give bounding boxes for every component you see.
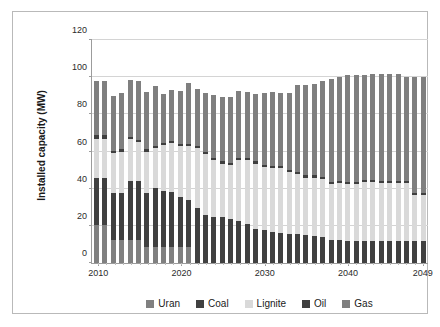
bar-segment-coal [312, 236, 317, 263]
x-axis-minor-tick [215, 263, 216, 265]
bar-segment-lignite [169, 143, 174, 192]
bar-2010 [94, 81, 99, 263]
bar-segment-lignite [111, 153, 116, 193]
bar-2049 [421, 77, 426, 263]
bar-segment-coal [262, 230, 267, 263]
x-axis-minor-tick [323, 263, 324, 265]
plot-area: 020406080100120 20102020203020402049 [91, 40, 428, 264]
bar-2033 [287, 93, 292, 263]
bar-2043 [370, 74, 375, 263]
bar-segment-lignite [144, 152, 149, 194]
legend-swatch-gas-icon [342, 300, 350, 308]
bar-2025 [220, 97, 225, 263]
bar-segment-coal [178, 197, 183, 247]
bar-segment-coal [245, 224, 250, 263]
legend-label: Lignite [257, 298, 286, 309]
x-axis-minor-tick [381, 263, 382, 265]
bar-segment-lignite [186, 146, 191, 200]
bar-segment-gas [136, 81, 141, 140]
bar-segment-coal [144, 193, 149, 247]
x-axis-minor-tick [140, 263, 141, 265]
bar-segment-lignite [195, 148, 200, 208]
bar-segment-gas [278, 93, 283, 166]
legend-label: Gas [354, 298, 372, 309]
bar-segment-coal [270, 232, 275, 263]
legend-item-gas[interactable]: Gas [342, 298, 372, 309]
bar-segment-lignite [303, 178, 308, 236]
bar-segment-coal [136, 181, 141, 240]
legend-item-oil[interactable]: Oil [302, 298, 326, 309]
x-axis-tick-label: 2030 [255, 268, 275, 278]
bar-segment-gas [295, 85, 300, 171]
bar-2048 [412, 77, 417, 263]
bar-segment-gas [111, 96, 116, 151]
bar-segment-gas [220, 97, 225, 161]
bar-2018 [161, 94, 166, 263]
bar-segment-lignite [404, 183, 409, 241]
bar-2016 [144, 92, 149, 263]
bar-segment-gas [94, 81, 99, 135]
bar-segment-coal [236, 221, 241, 263]
bar-2039 [337, 77, 342, 263]
x-axis-minor-tick [190, 263, 191, 265]
x-axis-tick-label: 2010 [88, 268, 108, 278]
bar-segment-gas [169, 90, 174, 141]
legend-item-uran[interactable]: Uran [146, 298, 180, 309]
bar-segment-lignite [102, 139, 107, 178]
y-axis-tick-label: 120 [72, 25, 87, 35]
bar-segment-coal [303, 235, 308, 263]
bar-2019 [169, 90, 174, 263]
bar-2038 [329, 79, 334, 263]
bar-segment-lignite [312, 178, 317, 237]
bar-segment-uran [94, 225, 99, 263]
bar-segment-gas [228, 97, 233, 163]
x-axis-minor-tick [298, 263, 299, 265]
bar-segment-gas [262, 93, 267, 165]
x-axis-minor-tick [365, 263, 366, 265]
bar-segment-coal [220, 217, 225, 263]
x-axis-minor-tick [290, 263, 291, 265]
bar-segment-gas [312, 84, 317, 175]
bar-segment-uran [136, 240, 141, 263]
x-axis-minor-tick [415, 263, 416, 265]
bar-segment-coal [203, 215, 208, 263]
bar-segment-gas [153, 86, 158, 145]
legend-swatch-oil-icon [302, 300, 310, 308]
bar-segment-gas [178, 91, 183, 144]
bar-segment-coal [421, 241, 426, 263]
y-axis-tick-label: 0 [82, 248, 87, 258]
legend-item-coal[interactable]: Coal [196, 298, 229, 309]
y-axis-tick-label: 60 [77, 137, 87, 147]
bar-segment-coal [287, 234, 292, 263]
x-axis-minor-tick [206, 263, 207, 265]
bar-segment-coal [119, 193, 124, 239]
x-axis-minor-tick [331, 263, 332, 265]
bar-2014 [128, 80, 133, 263]
chart-frame: Installed capacity (MW) 020406080100120 … [12, 11, 428, 314]
bar-segment-coal [253, 229, 258, 263]
legend-item-lignite[interactable]: Lignite [245, 298, 286, 309]
bar-segment-gas [128, 80, 133, 138]
bar-segment-uran [128, 240, 133, 263]
bar-2022 [195, 89, 200, 263]
bar-2012 [111, 96, 116, 263]
bar-segment-coal [111, 193, 116, 239]
bar-segment-lignite [295, 174, 300, 234]
bar-segment-lignite [128, 139, 133, 181]
x-axis-minor-tick [390, 263, 391, 265]
legend-label: Oil [314, 298, 326, 309]
x-axis-minor-tick [231, 263, 232, 265]
bar-segment-lignite [396, 183, 401, 241]
bar-segment-uran [119, 240, 124, 263]
x-axis-minor-tick [256, 263, 257, 265]
bar-segment-coal [195, 208, 200, 263]
bar-2017 [153, 86, 158, 263]
bar-2020 [178, 91, 183, 263]
x-axis-minor-tick [115, 263, 116, 265]
bar-segment-lignite [354, 184, 359, 241]
bar-segment-gas [102, 81, 107, 135]
bar-segment-lignite [119, 152, 124, 194]
bar-segment-coal [128, 181, 133, 240]
x-axis-minor-tick [173, 263, 174, 265]
legend-label: Uran [158, 298, 180, 309]
